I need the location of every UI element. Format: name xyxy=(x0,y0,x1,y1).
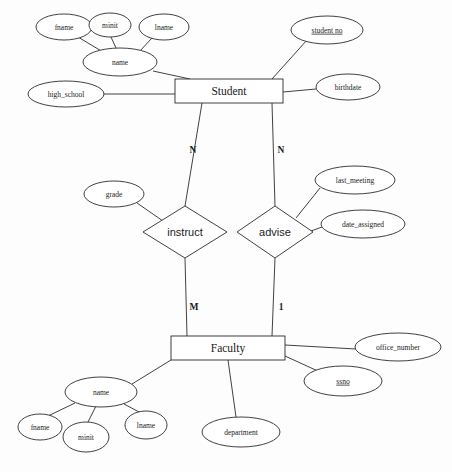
attribute-last-meeting-label: last_meeting xyxy=(336,176,375,185)
attribute-ssno[interactable]: ssno xyxy=(304,366,382,396)
attribute-high-school-label: high_school xyxy=(48,90,85,99)
attribute-fname-student[interactable]: fname xyxy=(36,14,92,40)
edge-advise-faculty xyxy=(272,258,275,336)
edge-birthdate-student xyxy=(283,89,316,92)
attribute-minit-student[interactable]: minit xyxy=(89,13,131,37)
entity-faculty[interactable]: Faculty xyxy=(171,336,285,360)
attribute-grade-label: grade xyxy=(106,190,123,199)
attribute-office-number-label: office_number xyxy=(376,343,421,352)
edge-name-minit-faculty xyxy=(88,406,96,422)
attribute-student-no-label: student no xyxy=(311,26,342,35)
edge-studentno-student xyxy=(272,40,307,79)
attribute-last-meeting[interactable]: last_meeting xyxy=(315,166,395,194)
edge-faculty-ssno xyxy=(285,356,320,372)
edge-student-advise xyxy=(272,103,275,206)
edge-fname-name-student xyxy=(78,37,103,52)
entity-student-label: Student xyxy=(211,85,247,97)
edge-instruct-faculty xyxy=(185,258,187,336)
attribute-lname-faculty-label: lname xyxy=(137,421,156,430)
attribute-ssno-label: ssno xyxy=(336,377,350,386)
edge-faculty-officenumber xyxy=(285,345,356,349)
edge-faculty-department xyxy=(228,360,236,417)
attribute-minit-student-label: minit xyxy=(102,21,119,30)
attribute-minit-faculty[interactable]: minit xyxy=(63,422,109,452)
edge-lastmeeting-advise xyxy=(296,188,320,218)
attribute-fname-faculty-label: fname xyxy=(31,423,50,432)
cardinality-instruct-faculty: M xyxy=(190,302,199,312)
relationship-advise[interactable]: advise xyxy=(237,206,313,258)
attribute-department-label: department xyxy=(224,428,259,437)
attribute-high-school[interactable]: high_school xyxy=(28,81,104,107)
attribute-lname-faculty[interactable]: lname xyxy=(125,411,167,439)
attribute-name-student-label: name xyxy=(112,58,129,67)
entity-faculty-label: Faculty xyxy=(211,342,246,355)
attribute-fname-faculty[interactable]: fname xyxy=(18,414,62,440)
edge-faculty-name xyxy=(132,360,171,384)
relationship-instruct[interactable]: instruct xyxy=(143,206,227,258)
attribute-department[interactable]: department xyxy=(202,417,280,447)
attribute-minit-faculty-label: minit xyxy=(78,433,95,442)
attribute-lname-student-label: lname xyxy=(155,23,174,32)
attribute-date-assigned[interactable]: date_assigned xyxy=(321,210,405,238)
attribute-student-no[interactable]: student no xyxy=(291,16,363,44)
edge-name-fname-faculty xyxy=(48,403,75,416)
attribute-name-faculty-label: name xyxy=(93,388,110,397)
attribute-name-faculty[interactable]: name xyxy=(65,377,137,407)
relationship-advise-label: advise xyxy=(259,226,291,238)
attribute-birthdate[interactable]: birthdate xyxy=(316,74,380,100)
attribute-fname-student-label: fname xyxy=(55,23,74,32)
attribute-office-number[interactable]: office_number xyxy=(355,333,441,361)
edge-minit-name-student xyxy=(111,37,116,48)
edge-grade-instruct xyxy=(137,203,163,221)
entity-student[interactable]: Student xyxy=(175,79,283,103)
cardinality-advise-faculty: 1 xyxy=(279,302,284,312)
attribute-lname-student[interactable]: lname xyxy=(139,14,189,40)
attribute-birthdate-label: birthdate xyxy=(335,83,362,92)
cardinality-student-advise: N xyxy=(278,145,285,155)
attribute-name-student[interactable]: name xyxy=(83,48,157,76)
edge-name-student xyxy=(153,71,190,79)
edge-lname-name-student xyxy=(139,38,152,52)
cardinality-student-instruct: N xyxy=(190,145,197,155)
relationship-instruct-label: instruct xyxy=(167,226,202,238)
attribute-grade[interactable]: grade xyxy=(84,181,144,207)
attribute-date-assigned-label: date_assigned xyxy=(342,220,384,229)
er-diagram-canvas: Student Faculty instruct advise fname mi… xyxy=(0,0,452,472)
